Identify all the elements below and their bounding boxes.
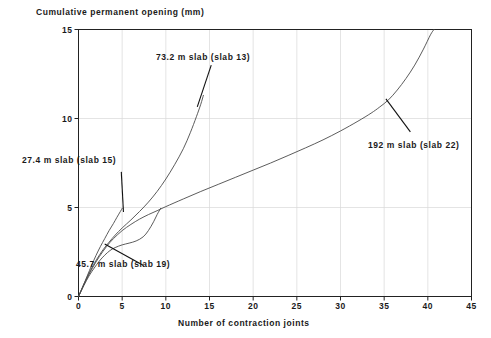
x-tick-5: 5	[120, 301, 125, 311]
annotation-slab-13: 73.2 m slab (slab 13)	[156, 52, 250, 62]
x-tick-30: 30	[335, 301, 345, 311]
gridlines	[79, 30, 472, 297]
annotation-slab-22: 192 m slab (slab 22)	[368, 140, 459, 150]
leader-line-3	[386, 99, 410, 132]
annotation-leader-lines	[105, 65, 411, 265]
plot-frame	[79, 30, 472, 297]
y-tick-0: 0	[53, 292, 73, 302]
y-tick-10: 10	[53, 114, 73, 124]
x-tick-45: 45	[466, 301, 476, 311]
chart-title: Cumulative permanent opening (mm)	[36, 7, 204, 17]
x-tick-35: 35	[379, 301, 389, 311]
cumulative-permanent-opening-chart	[0, 0, 491, 338]
x-tick-40: 40	[423, 301, 433, 311]
y-tick-5: 5	[53, 203, 73, 213]
annotation-slab-15: 27.4 m slab (slab 15)	[22, 155, 116, 165]
x-axis-title: Number of contraction joints	[178, 318, 310, 328]
x-tick-0: 0	[76, 301, 81, 311]
chart-figure: Cumulative permanent opening (mm) Number…	[0, 0, 491, 338]
x-tick-25: 25	[292, 301, 302, 311]
x-tick-15: 15	[204, 301, 214, 311]
x-tick-20: 20	[248, 301, 258, 311]
annotation-slab-19: 45.7 m slab (slab 19)	[76, 259, 170, 269]
y-tick-15: 15	[53, 25, 73, 35]
series-lines	[79, 30, 434, 297]
x-tick-10: 10	[161, 301, 171, 311]
series-line-3	[79, 30, 434, 297]
